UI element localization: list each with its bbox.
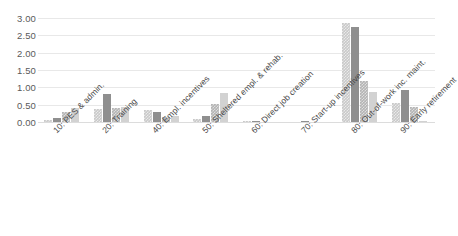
- y-axis-tick-label: 2.00: [2, 47, 36, 58]
- bar: [342, 23, 350, 122]
- y-axis-tick-label: 1.00: [2, 82, 36, 93]
- bar: [144, 110, 152, 122]
- y-axis-tick-label: 2.50: [2, 30, 36, 41]
- bar: [392, 103, 400, 122]
- y-axis: 0.000.501.001.502.002.503.00: [0, 18, 36, 122]
- bar: [94, 109, 102, 122]
- x-axis: 10: PES & admin.20: Training40: Empl. in…: [0, 122, 437, 236]
- y-axis-tick-label: 1.50: [2, 65, 36, 76]
- y-axis-tick-label: 3.00: [2, 13, 36, 24]
- y-axis-tick-label: 0.50: [2, 99, 36, 110]
